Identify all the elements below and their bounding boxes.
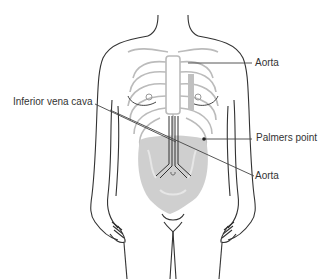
ribcage [128, 49, 218, 150]
palmers-point-marker [202, 137, 206, 141]
label-aorta-lower: Aorta [255, 170, 279, 181]
breast-outline [128, 94, 218, 105]
abdominal-organs [138, 74, 208, 214]
leader-line-ivc [95, 104, 176, 142]
label-palmers-point: Palmers point [256, 132, 317, 143]
label-inferior-vena-cava: Inferior vena cava [13, 96, 93, 107]
label-aorta-upper: Aorta [255, 57, 279, 68]
